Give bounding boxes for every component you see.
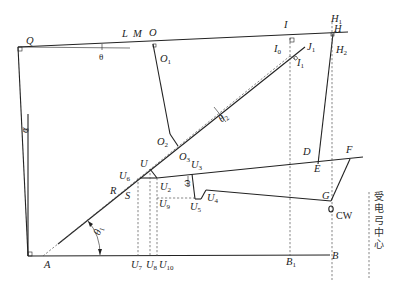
label-Q: Q [26,35,34,46]
caption-char-3: 弓 [374,215,384,226]
label-B1: B1 [286,256,296,269]
label-U9: U9 [159,198,171,211]
diagram-labels: Q L M O θ O1 O2 O3 I I0 J1 I1 H1 H H2 D … [0,0,403,294]
label-H2: H2 [335,44,348,57]
label-theta1: θ1 [91,224,106,237]
label-I1: I1 [296,57,305,70]
label-I0: I0 [273,43,282,56]
label-E: E [313,163,321,174]
label-O2: O2 [157,136,169,149]
label-U5: U5 [190,201,202,214]
label-D: D [302,146,311,157]
label-R: R [109,185,117,196]
label-U6: U6 [119,170,131,183]
label-G: G [322,190,330,201]
label-O: O [149,27,157,38]
label-theta2: θ2 [216,110,231,126]
label-L: L [121,28,128,39]
label-F: F [345,144,353,155]
label-CW: CW [336,210,353,221]
label-H: H [333,23,343,34]
caption-char-1: 受 [374,191,384,202]
label-theta: θ [99,52,103,62]
label-U: U [140,158,149,169]
label-B: B [332,250,339,261]
label-U7: U7 [131,259,143,272]
label-U10: U10 [159,259,174,272]
label-U2: U2 [160,181,172,194]
label-S: S [125,190,131,201]
caption-char-2: 电 [374,202,384,214]
label-I: I [283,19,288,30]
label-U3: U3 [191,159,203,172]
label-omega: ω [181,180,192,187]
label-alpha: α [19,127,30,133]
label-O1: O1 [160,53,172,66]
label-M: M [132,28,143,39]
caption-char-4: 中 [374,226,384,238]
label-U8: U8 [146,259,158,272]
label-A: A [43,259,51,270]
caption-char-5: 心 [374,239,384,250]
label-J1: J1 [307,41,316,54]
label-O3: O3 [179,151,191,164]
label-U4: U4 [207,192,219,205]
